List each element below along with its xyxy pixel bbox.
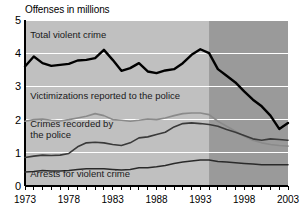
series-label-3: the police	[30, 129, 71, 140]
y-tick-label: 2	[15, 114, 21, 126]
y-tick-label: 1	[15, 147, 21, 159]
x-tick-label: 1983	[102, 194, 125, 205]
x-axis-ticks	[25, 186, 288, 190]
chart-svg: 012345 1973197819831988199319982003 Tota…	[0, 0, 305, 210]
y-tick-label: 4	[15, 47, 21, 59]
x-tick-label: 1993	[189, 194, 212, 205]
x-tick-label: 1998	[233, 194, 256, 205]
plot-wrapper: 012345 1973197819831988199319982003 Tota…	[0, 0, 305, 210]
series-label-4: Arrests for violent crime	[30, 168, 130, 179]
y-axis-ticklabels: 012345	[15, 14, 21, 192]
x-tick-label: 1978	[58, 194, 81, 205]
series-label-1: Victimizations reported to the police	[30, 90, 180, 101]
series-label-0: Total violent crime	[30, 29, 106, 40]
x-tick-label: 2003	[277, 194, 300, 205]
x-axis-ticklabels: 1973197819831988199319982003	[14, 194, 300, 205]
series-label-2: Crimes recorded by	[30, 118, 113, 129]
y-tick-label: 5	[15, 14, 21, 26]
y-tick-label: 0	[15, 180, 21, 192]
x-tick-label: 1973	[14, 194, 37, 205]
plot-background-layer	[25, 20, 288, 186]
y-tick-label: 3	[15, 80, 21, 92]
chart-figure: Offenses in millions 012345 197319781983…	[0, 0, 305, 210]
x-tick-label: 1988	[145, 194, 168, 205]
